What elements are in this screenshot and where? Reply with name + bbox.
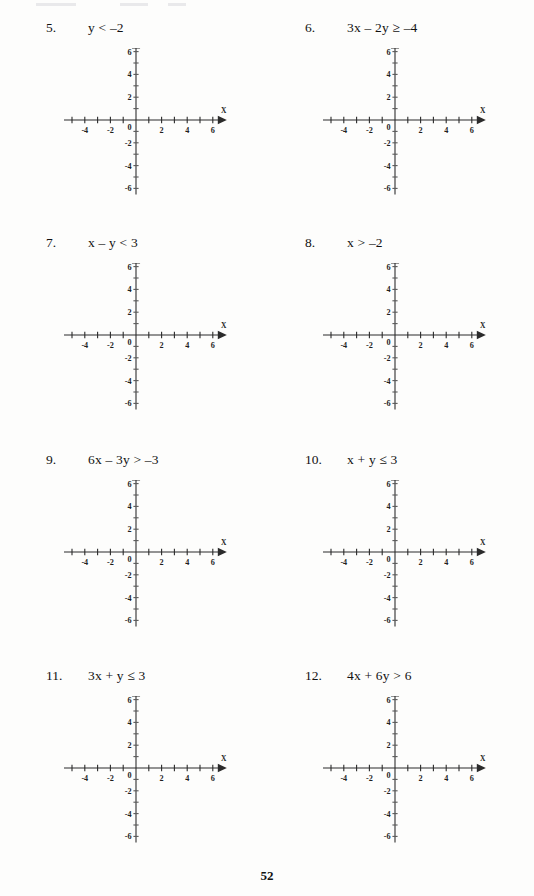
y-axis-tick-label: 6 [127,696,131,705]
problem-number: 7. [46,235,88,251]
y-axis-tick-label: -4 [125,594,132,603]
x-axis-tick-label: -2 [107,341,114,350]
coordinate-plane-10[interactable]: -6-4-22466420-2-4-6XY [323,480,534,645]
x-axis-tick-label: 4 [444,126,448,135]
x-axis-tick-label: 2 [419,126,423,135]
y-axis-tick-label: -2 [125,787,132,796]
x-axis-tick-label: -4 [340,558,347,567]
origin-label: 0 [386,123,390,132]
coordinate-plane-8[interactable]: -6-4-22466420-2-4-6XY [323,263,534,428]
page-number: 52 [0,868,534,884]
problem-5-heading: 5.y < –2 [46,20,296,42]
y-axis-tick-label: 2 [386,93,390,102]
y-axis-tick-label: -4 [384,594,391,603]
problem-12: 12.4x + 6y > 6 -6-4-22466420-2-4-6XY [305,668,534,690]
x-axis-tick-label: 6 [470,774,474,783]
x-axis-tick-label: -2 [107,774,114,783]
problem-number: 5. [46,20,88,36]
x-axis-tick-label: 6 [470,126,474,135]
y-axis-tick-label: 2 [127,525,131,534]
problem-number: 9. [46,452,88,468]
y-axis-tick-label: -4 [125,810,132,819]
x-axis-tick-label: 4 [444,341,448,350]
y-axis-tick-label: 6 [386,696,390,705]
y-axis-tick-label: 2 [127,93,131,102]
axes-svg: -6-4-22466420-2-4-6XY [64,48,279,213]
x-axis-tick-label: 2 [419,558,423,567]
x-axis-tick-label: -2 [107,558,114,567]
y-axis-arrow-icon [391,480,399,481]
coordinate-plane-12[interactable]: -6-4-22466420-2-4-6XY [323,696,534,861]
x-axis-label: X [480,754,486,763]
x-axis-label: X [221,538,227,547]
y-axis-arrow-icon [132,48,140,49]
y-axis-tick-label: -6 [384,832,391,841]
y-axis-arrow-icon [391,696,399,697]
y-axis-tick-label: 4 [127,502,131,511]
y-axis-tick-label: -6 [125,616,132,625]
y-axis-tick-label: 2 [127,308,131,317]
x-axis-tick-label: 4 [185,341,189,350]
y-axis-tick-label: 4 [127,285,131,294]
x-axis-tick-label: 6 [211,774,215,783]
problem-number: 8. [305,235,347,251]
problem-8-heading: 8.x > –2 [305,235,534,257]
y-axis-tick-label: 6 [386,48,390,57]
y-axis-tick-label: -6 [125,184,132,193]
y-axis-tick-label: 6 [127,48,131,57]
coordinate-plane-7[interactable]: -6-4-22466420-2-4-6XY [64,263,279,428]
y-axis-tick-label: 4 [386,718,390,727]
y-axis-tick-label: -2 [384,139,391,148]
x-axis-tick-label: 4 [444,774,448,783]
y-axis-tick-label: 4 [127,70,131,79]
axes-svg: -6-4-22466420-2-4-6XY [64,480,279,645]
axes-svg: -6-4-22466420-2-4-6XY [323,48,534,213]
x-axis-tick-label: -2 [366,558,373,567]
coordinate-plane-11[interactable]: -6-4-22466420-2-4-6XY [64,696,279,861]
y-axis-tick-label: -2 [384,571,391,580]
x-axis-tick-label: -4 [81,774,88,783]
coordinate-plane-5[interactable]: -6-4-22466420-2-4-6XY [64,48,279,213]
x-axis-tick-label: -4 [340,774,347,783]
x-axis-tick-label: 2 [160,341,164,350]
y-axis-tick-label: 6 [386,480,390,489]
problem-11-heading: 11.3x + y ≤ 3 [46,668,296,690]
problem-expression: x + y ≤ 3 [347,452,398,468]
y-axis-tick-label: -2 [384,354,391,363]
coordinate-plane-6[interactable]: -6-4-22466420-2-4-6XY [323,48,534,213]
x-axis-tick-label: 6 [470,558,474,567]
problem-expression: 6x – 3y > –3 [88,452,159,468]
y-axis-tick-label: -2 [125,139,132,148]
origin-label: 0 [127,123,131,132]
scan-artifact [36,3,76,6]
x-axis-tick-label: 6 [211,126,215,135]
y-axis-tick-label: 2 [386,741,390,750]
y-axis-tick-label: -2 [384,787,391,796]
y-axis-arrow-icon [132,480,140,481]
problem-expression: 3x – 2y ≥ –4 [347,20,418,36]
y-axis-arrow-icon [132,696,140,697]
x-axis-arrow-icon [218,116,227,124]
problem-7: 7.x – y < 3 -6-4-22466420-2-4-6XY [46,235,296,257]
problem-7-heading: 7.x – y < 3 [46,235,296,257]
problem-6: 6.3x – 2y ≥ –4 -6-4-22466420-2-4-6XY [305,20,534,42]
y-axis-tick-label: -4 [384,810,391,819]
x-axis-tick-label: -2 [366,774,373,783]
y-axis-tick-label: -6 [125,832,132,841]
problem-10: 10.x + y ≤ 3 -6-4-22466420-2-4-6XY [305,452,534,474]
x-axis-label: X [480,106,486,115]
y-axis-tick-label: 4 [127,718,131,727]
coordinate-plane-9[interactable]: -6-4-22466420-2-4-6XY [64,480,279,645]
problem-12-heading: 12.4x + 6y > 6 [305,668,534,690]
origin-label: 0 [386,771,390,780]
y-axis-tick-label: -2 [125,571,132,580]
x-axis-tick-label: 2 [160,558,164,567]
axes-svg: -6-4-22466420-2-4-6XY [323,480,534,645]
problem-expression: y < –2 [88,20,124,36]
x-axis-tick-label: 6 [470,341,474,350]
x-axis-tick-label: -4 [81,558,88,567]
y-axis-tick-label: -6 [384,184,391,193]
y-axis-tick-label: 2 [127,741,131,750]
origin-label: 0 [386,555,390,564]
y-axis-arrow-icon [391,48,399,49]
